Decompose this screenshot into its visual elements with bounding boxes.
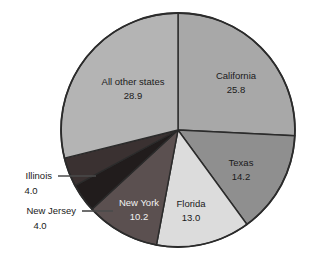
callout-label-new-jersey-value: 4.0: [33, 220, 46, 231]
slice-label-florida-name: Florida: [176, 198, 206, 209]
pie-slices: [61, 13, 295, 247]
callout-label-new-jersey-name: New Jersey: [26, 205, 76, 216]
slice-label-california-name: California: [216, 70, 257, 81]
slice-label-new-york-name: New York: [119, 197, 159, 208]
slice-label-all-other-states-name: All other states: [102, 76, 165, 87]
pie-chart-svg: California 25.8 Texas 14.2 Florida 13.0 …: [0, 0, 310, 267]
slice-label-california-value: 25.8: [227, 84, 246, 95]
caption-strip: [0, 258, 310, 267]
callout-label-illinois-name: Illinois: [26, 170, 53, 181]
slice-label-new-york-value: 10.2: [130, 211, 149, 222]
slice-label-texas-name: Texas: [229, 157, 254, 168]
callout-label-illinois-value: 4.0: [24, 185, 37, 196]
slice-label-texas-value: 14.2: [232, 171, 251, 182]
pie-chart-figure: California 25.8 Texas 14.2 Florida 13.0 …: [0, 0, 310, 267]
slice-label-all-other-states-value: 28.9: [124, 90, 143, 101]
slice-label-florida-value: 13.0: [182, 212, 201, 223]
